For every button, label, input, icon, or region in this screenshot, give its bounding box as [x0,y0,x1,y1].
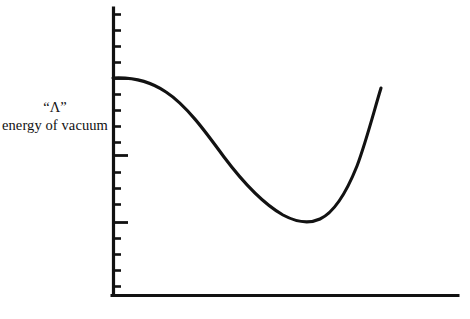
y-axis-label-symbol: “Λ” [0,99,110,117]
y-axis-label-text: energy of vacuum [0,117,110,135]
figure-root: “Λ” energy of vacuum [0,0,470,319]
plot-canvas [0,0,470,319]
y-axis-label: “Λ” energy of vacuum [0,99,110,134]
y-axis-tick-group [114,15,128,287]
vacuum-energy-curve [113,78,381,222]
